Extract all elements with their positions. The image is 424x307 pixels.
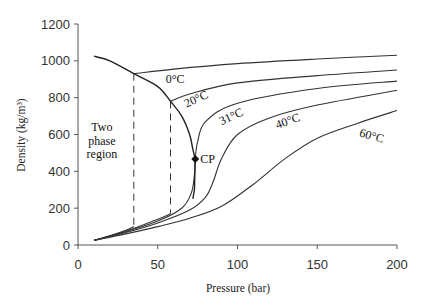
y-tick-label: 200 xyxy=(48,201,70,216)
y-tick-label: 600 xyxy=(48,127,70,142)
y-tick-label: 0 xyxy=(63,238,70,253)
annotation-label: region xyxy=(87,147,118,161)
x-tick-label: 100 xyxy=(227,257,249,272)
isotherm-curves xyxy=(94,55,397,240)
isotherm-40c-line xyxy=(94,90,397,240)
annotation-label: 60°C xyxy=(358,126,386,146)
annotation-label: phase xyxy=(88,134,115,148)
isotherm-60c-line xyxy=(94,111,397,241)
y-axis-title: Density (kg/m³) xyxy=(15,98,28,172)
y-tick-label: 800 xyxy=(48,90,70,105)
x-tick-label: 200 xyxy=(386,257,408,272)
y-tick-label: 400 xyxy=(48,164,70,179)
density-pressure-chart: 020040060080010001200050100150200 CP Two… xyxy=(0,0,424,307)
critical-point-diamond-icon xyxy=(191,155,199,163)
x-axis-title: Pressure (bar) xyxy=(206,282,270,295)
critical-point-label: CP xyxy=(200,152,215,166)
dashed-tie-lines xyxy=(134,74,171,227)
y-tick-label: 1200 xyxy=(41,17,70,32)
annotation-label: Two xyxy=(91,120,112,134)
annotation-label: 31°C xyxy=(217,105,245,128)
annotation-label: 40°C xyxy=(274,110,302,132)
y-tick-label: 1000 xyxy=(41,53,70,68)
isotherm-31c-line xyxy=(94,81,397,240)
annotation-label: 20°C xyxy=(182,87,210,110)
annotation-label: 0°C xyxy=(166,72,185,86)
saturation-line-lower xyxy=(193,159,195,199)
x-tick-label: 0 xyxy=(74,257,81,272)
x-tick-label: 150 xyxy=(306,257,328,272)
x-tick-label: 50 xyxy=(151,257,165,272)
